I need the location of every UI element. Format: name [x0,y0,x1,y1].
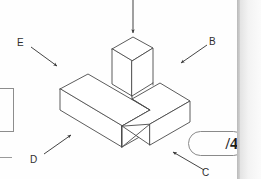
label-d: D [30,155,37,165]
arrow-e [31,47,57,66]
worksheet-page: E B D C /4 [0,0,261,179]
label-c: C [202,168,209,178]
arrow-d [44,135,71,154]
label-b: B [209,37,216,47]
page-edge-shadow [240,0,261,179]
label-e: E [17,38,24,48]
arrow-b [181,45,207,63]
